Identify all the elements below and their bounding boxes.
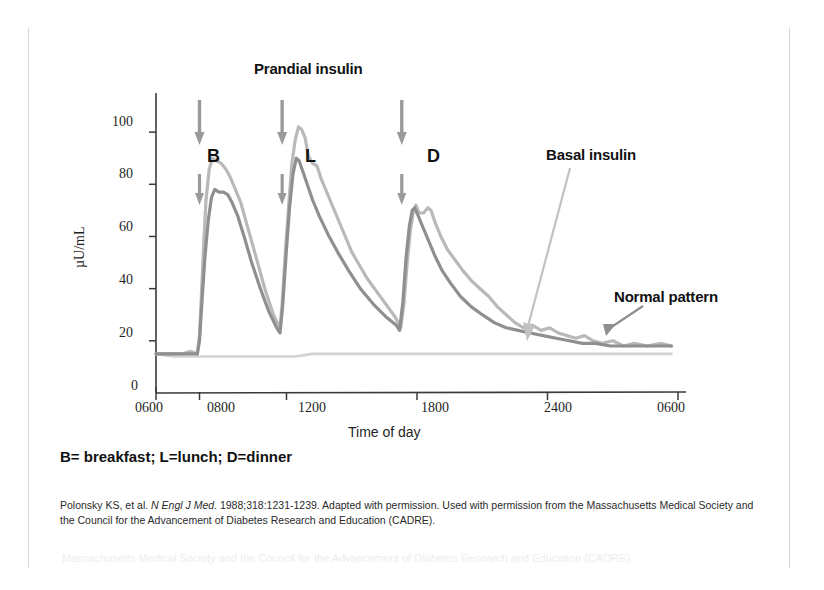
basal-insulin-pointer <box>527 168 570 330</box>
xtick-0600-end: 0600 <box>657 400 685 416</box>
prandial-arrow-long-head <box>397 132 407 145</box>
ytick-80: 80 <box>119 166 133 182</box>
meal-letter-dinner: D <box>427 146 440 167</box>
basal-insulin-label: Basal insulin <box>546 146 636 163</box>
prandial-insulin-label: Prandial insulin <box>254 60 363 77</box>
ytick-100: 100 <box>112 114 133 130</box>
meal-letter-breakfast: B <box>207 146 220 167</box>
ytick-60: 60 <box>119 219 133 235</box>
meal-abbreviation-note: B= breakfast; L=lunch; D=dinner <box>60 448 292 465</box>
prandial-arrow-short-head <box>397 193 406 205</box>
figure-page: 100 80 60 40 20 0 0600 0800 1200 1800 24… <box>0 0 824 590</box>
normal-pattern-label: Normal pattern <box>614 288 718 305</box>
citation-journal: N Engl J Med <box>151 499 214 511</box>
xtick-0800: 0800 <box>207 400 235 416</box>
scan-ghost-text: Massachusetts Medical Society and the Co… <box>62 552 633 564</box>
ytick-40: 40 <box>119 272 133 288</box>
citation-authors: Polonsky KS, et al. <box>60 499 151 511</box>
x-axis <box>156 392 686 393</box>
normal-pattern-pointer-head <box>603 324 616 336</box>
ytick-20: 20 <box>119 325 133 341</box>
citation: Polonsky KS, et al. N Engl J Med. 1988;3… <box>60 498 760 528</box>
y-axis-label: µU/mL <box>72 226 88 268</box>
xtick-2400: 2400 <box>544 400 572 416</box>
xtick-0600-start: 0600 <box>135 400 163 416</box>
prandial-arrow-short-head <box>195 193 204 205</box>
xtick-1200: 1200 <box>298 400 326 416</box>
prandial-arrow-long-head <box>277 132 287 145</box>
series-path <box>156 354 672 357</box>
x-axis-label: Time of day <box>348 424 421 440</box>
ytick-0: 0 <box>131 378 138 394</box>
prandial-arrow-long-head <box>195 132 205 145</box>
citation-rest: . 1988;318:1231-1239. Adapted with permi… <box>214 499 583 511</box>
meal-letter-lunch: L <box>305 146 316 167</box>
xtick-1800: 1800 <box>421 400 449 416</box>
prandial-arrow-short-head <box>278 193 287 205</box>
